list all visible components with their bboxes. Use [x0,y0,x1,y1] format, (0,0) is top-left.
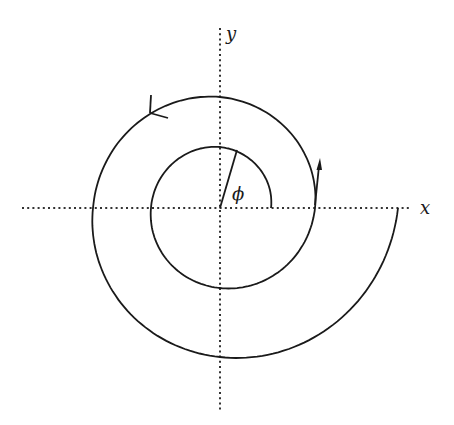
spiral-curve [92,97,398,358]
angle-label: ϕ [232,183,244,204]
y-axis-label: y [225,23,237,44]
velocity-arrow-icon [315,158,322,205]
spiral-diagram: y x ϕ [0,0,454,425]
x-axis-label: x [420,197,430,218]
